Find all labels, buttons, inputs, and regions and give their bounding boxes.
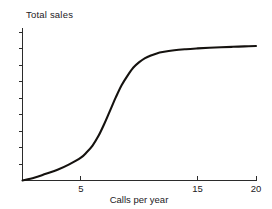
- x-axis-title: Calls per year: [110, 194, 169, 205]
- y-axis: [19, 28, 23, 181]
- x-axis-tick-labels: 51520: [78, 183, 261, 194]
- y-axis-ticks: [19, 32, 23, 164]
- chart-figure: Total sales 51520 Calls per year: [0, 0, 272, 209]
- chart-plot-area: 51520 Calls per year: [0, 0, 272, 209]
- x-axis-tick-label: 20: [251, 183, 262, 194]
- x-axis: 51520: [23, 176, 262, 194]
- data-series-group: [23, 46, 257, 181]
- x-axis-tick-label: 5: [78, 183, 83, 194]
- x-axis-ticks: [81, 176, 256, 181]
- x-axis-tick-label: 15: [192, 183, 203, 194]
- data-series-line: [23, 46, 257, 181]
